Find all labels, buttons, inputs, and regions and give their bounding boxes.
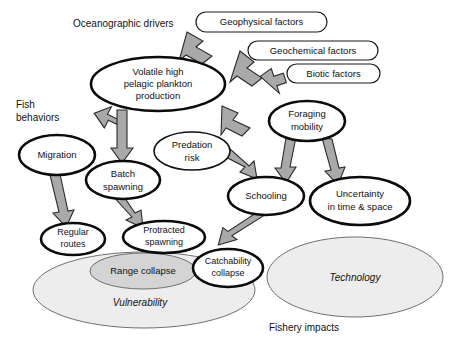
geochemical-factors-label: Geochemical factors <box>270 45 357 56</box>
fish-behaviors-line2: behaviors <box>16 112 59 123</box>
protracted-spawning-line1: Protracted <box>143 225 185 235</box>
migration-label: Migration <box>37 149 76 160</box>
regular-routes-line1: Regular <box>57 227 89 237</box>
node-range-collapse[interactable]: Range collapse <box>90 253 196 289</box>
node-uncertainty[interactable]: Uncertainty in time & space <box>310 177 410 225</box>
fish-behaviors-line1: Fish <box>16 99 35 110</box>
node-volatile-production[interactable]: Volatile high pelagic plankton productio… <box>91 57 225 111</box>
predation-risk-line2: risk <box>185 152 200 163</box>
node-protracted-spawning[interactable]: Protracted spawning <box>123 221 205 253</box>
batch-spawning-line1: Batch <box>111 168 135 179</box>
pill-geophysical-factors[interactable]: Geophysical factors <box>196 12 327 32</box>
foraging-mobility-line1: Foraging <box>288 108 326 119</box>
protracted-spawning-line2: spawning <box>145 237 183 247</box>
diagram-svg: Technology Vulnerability Range collapse <box>0 0 459 351</box>
batch-spawning-line2: spawning <box>103 181 143 192</box>
regular-routes-line2: routes <box>60 239 86 249</box>
arrow-migration-to-regular-routes <box>50 174 74 227</box>
foraging-mobility-line2: mobility <box>291 121 323 132</box>
pill-geochemical-factors[interactable]: Geochemical factors <box>248 41 378 60</box>
technology-label: Technology <box>330 272 382 283</box>
pill-biotic-factors[interactable]: Biotic factors <box>287 64 380 83</box>
node-schooling[interactable]: Schooling <box>228 177 304 215</box>
volatile-production-line1: Volatile high <box>132 66 183 77</box>
catchability-collapse-line1: Catchability <box>205 256 252 266</box>
node-regular-routes[interactable]: Regular routes <box>41 223 105 255</box>
catchability-collapse-line2: collapse <box>211 268 244 278</box>
vulnerability-label: Vulnerability <box>113 297 168 308</box>
schooling-label: Schooling <box>245 190 287 201</box>
volatile-production-line3: production <box>136 90 180 101</box>
node-migration[interactable]: Migration <box>19 135 95 175</box>
node-foraging-mobility[interactable]: Foraging mobility <box>269 101 345 141</box>
node-predation-risk[interactable]: Predation risk <box>154 132 230 170</box>
uncertainty-line1: Uncertainty <box>336 188 384 199</box>
range-collapse-label: Range collapse <box>110 265 176 276</box>
arrow-volatile-to-foraging <box>221 106 250 136</box>
arrow-biotic-to-volatile <box>259 65 289 97</box>
oceanographic-drivers-label: Oceanographic drivers <box>73 18 174 29</box>
geophysical-factors-label: Geophysical factors <box>220 16 304 27</box>
figure-canvas: Technology Vulnerability Range collapse <box>0 0 459 351</box>
uncertainty-line2: in time & space <box>328 201 393 212</box>
predation-risk-line1: Predation <box>172 139 213 150</box>
group-technology: Technology <box>267 237 443 317</box>
volatile-production-line2: pelagic plankton <box>124 78 193 89</box>
node-batch-spawning[interactable]: Batch spawning <box>86 161 160 199</box>
node-catchability-collapse[interactable]: Catchability collapse <box>193 249 263 287</box>
arrow-foraging-to-schooling <box>275 137 296 183</box>
biotic-factors-label: Biotic factors <box>306 68 361 79</box>
fishery-impacts-label: Fishery impacts <box>269 322 339 333</box>
